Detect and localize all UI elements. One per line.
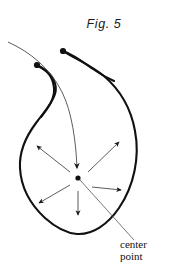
center-point-label: center point — [120, 238, 176, 262]
center-point-label-line2: point — [120, 250, 176, 262]
tail-stem-top — [63, 51, 114, 81]
arrow-up-right — [88, 142, 119, 172]
arrow-down-left — [39, 185, 70, 203]
center-point-dot — [75, 175, 80, 180]
figure-drawing-canvas — [0, 0, 178, 273]
tail-dot-left — [34, 62, 40, 68]
arrow-inflow-top — [8, 42, 77, 168]
figure-page: Fig. 5 cent — [0, 0, 178, 273]
arrow-right — [92, 187, 121, 190]
arrow-up-left — [37, 146, 70, 172]
tail-dot-top — [60, 48, 66, 54]
tail-stem-left — [37, 65, 54, 117]
center-point-label-line1: center — [120, 238, 176, 250]
